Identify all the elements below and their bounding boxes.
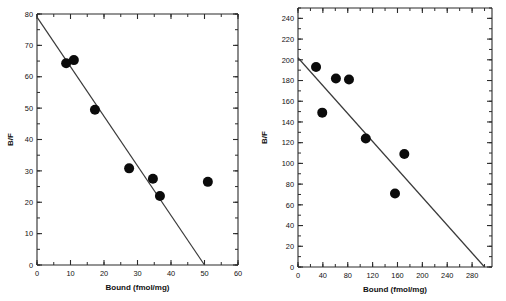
scatter-plot-right: 0408012016020024028002040608010012014016… xyxy=(253,0,506,301)
y-tick-label: 40 xyxy=(286,221,294,230)
regression-line xyxy=(37,17,205,265)
y-tick-label: 0 xyxy=(290,263,294,272)
y-tick-label: 40 xyxy=(25,135,33,144)
data-point xyxy=(317,108,327,118)
x-tick-label: 40 xyxy=(319,271,327,280)
data-point xyxy=(344,74,354,84)
data-point xyxy=(90,105,100,115)
data-point xyxy=(331,73,341,83)
x-tick-label: 200 xyxy=(416,271,428,280)
y-tick-label: 0 xyxy=(29,261,33,270)
y-tick-label: 140 xyxy=(282,118,294,127)
x-tick-label: 20 xyxy=(100,269,108,278)
y-axis-title-group: B/F xyxy=(260,131,269,144)
data-point xyxy=(361,134,371,144)
y-tick-label: 60 xyxy=(25,72,33,81)
y-tick-label: 80 xyxy=(25,10,33,19)
x-axis-title: Bound (fmol/mg) xyxy=(106,283,170,292)
x-tick-label: 160 xyxy=(391,271,403,280)
y-tick-label: 160 xyxy=(282,97,294,106)
data-point xyxy=(69,55,79,65)
y-tick-label: 180 xyxy=(282,76,294,85)
y-tick-label: 20 xyxy=(25,198,33,207)
x-tick-label: 10 xyxy=(66,269,74,278)
scatter-plot-left: 010203040506001020304050607080Bound (fmo… xyxy=(0,0,253,301)
x-tick-label: 0 xyxy=(35,269,39,278)
two-panel-scatchard-figure: 010203040506001020304050607080Bound (fmo… xyxy=(0,0,506,301)
data-point xyxy=(399,149,409,159)
data-point xyxy=(155,191,165,201)
x-tick-label: 50 xyxy=(200,269,208,278)
y-tick-label: 60 xyxy=(286,201,294,210)
data-point xyxy=(124,163,134,173)
y-tick-label: 20 xyxy=(286,242,294,251)
data-point xyxy=(203,177,213,187)
y-tick-label: 120 xyxy=(282,138,294,147)
y-tick-label: 220 xyxy=(282,35,294,44)
x-tick-label: 40 xyxy=(167,269,175,278)
y-tick-label: 70 xyxy=(25,41,33,50)
y-tick-label: 50 xyxy=(25,104,33,113)
x-tick-label: 30 xyxy=(133,269,141,278)
data-point xyxy=(390,188,400,198)
x-tick-label: 60 xyxy=(234,269,242,278)
y-axis-title-group: B/F xyxy=(6,133,15,146)
x-tick-label: 0 xyxy=(296,271,300,280)
y-tick-label: 200 xyxy=(282,56,294,65)
y-tick-label: 80 xyxy=(286,180,294,189)
x-tick-label: 240 xyxy=(441,271,453,280)
y-axis-title: B/F xyxy=(6,133,15,146)
x-tick-label: 80 xyxy=(344,271,352,280)
y-tick-label: 10 xyxy=(25,229,33,238)
x-tick-label: 280 xyxy=(466,271,478,280)
y-tick-label: 100 xyxy=(282,159,294,168)
y-tick-label: 30 xyxy=(25,167,33,176)
chart-panel-left: 010203040506001020304050607080Bound (fmo… xyxy=(0,0,253,301)
y-tick-label: 240 xyxy=(282,14,294,23)
data-point xyxy=(148,174,158,184)
y-axis-title: B/F xyxy=(260,131,269,144)
data-point xyxy=(311,62,321,72)
x-axis-title: Bound (fmol/mg) xyxy=(363,285,427,294)
x-tick-label: 120 xyxy=(366,271,378,280)
chart-panel-right: 0408012016020024028002040608010012014016… xyxy=(253,0,506,301)
regression-line xyxy=(298,58,485,267)
